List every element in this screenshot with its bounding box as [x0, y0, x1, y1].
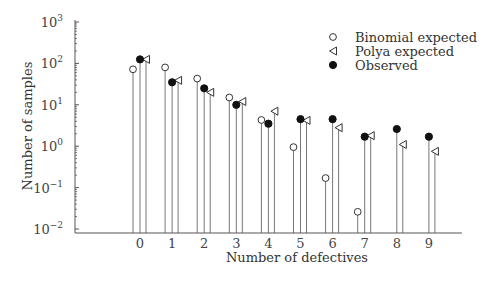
x-axis: 0123456789: [75, 233, 462, 251]
x-tick-label: 2: [200, 236, 208, 251]
open-circle-marker: [322, 175, 329, 182]
legend-label: Observed: [355, 58, 418, 73]
x-tick-label: 1: [168, 236, 176, 251]
filled-circle-marker: [329, 116, 336, 123]
filled-circle-marker: [393, 125, 400, 132]
open-circle-marker: [194, 75, 201, 82]
open-circle-marker: [290, 144, 297, 151]
open-circle-marker: [226, 94, 233, 101]
y-tick-label: 10−1: [33, 179, 63, 196]
filled-circle-marker: [201, 85, 208, 92]
stem-chart: 10310210110010−110−2 0123456789 Number o…: [0, 0, 486, 281]
filled-circle-marker: [169, 79, 176, 86]
legend-item: Observed: [329, 58, 418, 73]
y-tick-label: 10−2: [33, 220, 63, 237]
y-axis-title: Number of samples: [20, 62, 35, 191]
plot-area: [130, 55, 439, 233]
y-tick-label: 101: [41, 96, 63, 113]
filled-circle-marker: [297, 116, 304, 123]
open-circle-marker: [130, 66, 137, 73]
open-circle-marker: [258, 117, 265, 124]
x-tick-label: 4: [264, 236, 272, 251]
y-tick-label: 100: [41, 137, 64, 154]
filled-circle-marker: [361, 133, 368, 140]
filled-circle-marker: [265, 120, 272, 127]
legend-label: Binomial expected: [355, 30, 477, 45]
y-axis: 10310210110010−110−2: [33, 13, 79, 237]
y-tick-label: 103: [41, 13, 64, 30]
x-tick-label: 5: [296, 236, 304, 251]
filled-circle-marker: [233, 101, 240, 108]
series-binomial-expected: [130, 64, 362, 233]
x-tick-label: 0: [136, 236, 144, 251]
legend-label: Polya expected: [355, 44, 454, 59]
filled-circle-marker: [329, 61, 336, 68]
x-tick-label: 9: [425, 236, 433, 251]
legend: Binomial expectedPolya expectedObserved: [329, 30, 477, 73]
series-polya-expected: [143, 55, 439, 233]
left-triangle-marker: [330, 47, 337, 55]
filled-circle-marker: [136, 56, 143, 63]
filled-circle-marker: [425, 133, 432, 140]
legend-item: Binomial expected: [330, 30, 477, 45]
y-tick-label: 102: [41, 54, 63, 71]
x-axis-title: Number of defectives: [226, 250, 368, 265]
x-tick-label: 6: [328, 236, 336, 251]
x-tick-label: 8: [393, 236, 401, 251]
open-circle-marker: [354, 208, 361, 215]
legend-item: Polya expected: [330, 44, 455, 59]
open-circle-marker: [330, 34, 337, 41]
x-tick-label: 7: [361, 236, 369, 251]
x-tick-label: 3: [232, 236, 240, 251]
open-circle-marker: [162, 64, 169, 71]
